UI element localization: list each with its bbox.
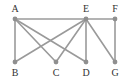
nodes-group [13, 17, 118, 65]
graph-diagram: AEFBCDG [0, 0, 124, 80]
node-label-d: D [82, 67, 89, 78]
node-label-e: E [83, 3, 89, 14]
node-g [113, 60, 118, 65]
node-label-c: C [53, 67, 60, 78]
node-label-f: F [112, 3, 118, 14]
edge-e-c [56, 19, 86, 62]
node-c [54, 60, 59, 65]
node-e [84, 17, 89, 22]
node-a [13, 17, 18, 22]
labels-group: AEFBCDG [11, 3, 118, 78]
node-f [113, 17, 118, 22]
node-b [13, 60, 18, 65]
node-label-a: A [11, 3, 19, 14]
node-label-g: G [111, 67, 118, 78]
edges-group [15, 19, 115, 62]
node-d [84, 60, 89, 65]
edge-e-g [86, 19, 115, 62]
node-label-b: B [12, 67, 19, 78]
